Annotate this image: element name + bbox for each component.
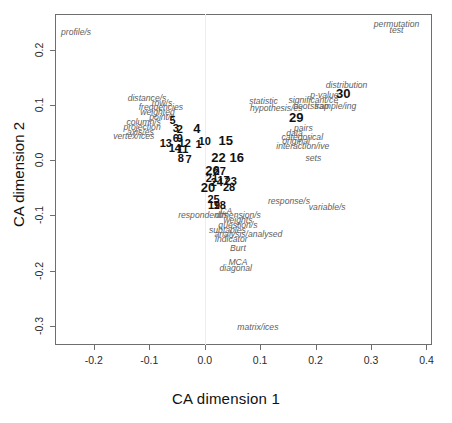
chapter-point-label: 30 (336, 87, 350, 100)
y-tick-label: -0.1 (33, 206, 45, 224)
y-tick-mark (50, 160, 55, 161)
y-tick-mark (50, 105, 55, 106)
y-tick-label: 0.2 (33, 43, 45, 58)
term-point-label: variable/s (309, 202, 346, 211)
term-point-label: response/s (268, 197, 310, 206)
y-tick-label: -0.3 (33, 317, 45, 335)
x-tick-mark (316, 345, 317, 350)
x-tick-label: 0.2 (308, 354, 323, 366)
y-tick-label: 0.0 (33, 153, 45, 168)
term-point-label: p-value (310, 90, 338, 99)
chapter-point-label: 7 (186, 154, 192, 165)
chapter-point-label: 4 (193, 122, 200, 135)
y-tick-mark (50, 326, 55, 327)
chapter-point-label: 18 (214, 200, 226, 211)
chapter-point-label: 15 (219, 134, 233, 147)
x-tick-mark (260, 345, 261, 350)
chapter-point-label: 20 (201, 180, 215, 193)
x-tick-mark (149, 345, 150, 350)
x-tick-label: 0.1 (253, 354, 268, 366)
chapter-point-label: 10 (199, 136, 211, 147)
y-tick-mark (50, 215, 55, 216)
term-point-label: test (390, 26, 404, 35)
ca-biplot-figure: -0.2-0.10.00.10.20.30.4-0.3-0.2-0.10.00.… (0, 0, 452, 423)
chapter-point-label: 28 (223, 182, 235, 193)
term-point-label: matrix/ices (237, 323, 278, 332)
x-tick-mark (371, 345, 372, 350)
chapter-point-label: 16 (230, 150, 244, 163)
x-tick-mark (205, 345, 206, 350)
y-tick-label: 0.1 (33, 98, 45, 113)
term-point-label: indicator (215, 235, 247, 244)
y-tick-mark (50, 50, 55, 51)
x-tick-label: -0.1 (140, 354, 158, 366)
x-tick-label: 0.3 (364, 354, 379, 366)
term-point-label: sets (305, 154, 321, 163)
plot-area (55, 14, 432, 345)
y-tick-label: -0.2 (33, 261, 45, 279)
x-tick-mark (94, 345, 95, 350)
term-point-label: sample/ing (315, 101, 357, 110)
x-tick-label: 0.0 (197, 354, 212, 366)
term-point-label: profile/s (61, 28, 91, 37)
chapter-point-label: 29 (289, 110, 303, 123)
x-tick-label: -0.2 (85, 354, 103, 366)
term-point-label: diagonal (219, 264, 252, 273)
term-point-label: Burt (230, 244, 246, 253)
x-axis-title: CA dimension 1 (0, 390, 452, 407)
y-tick-mark (50, 271, 55, 272)
chapter-point-label: 8 (178, 152, 184, 163)
term-point-label: vertex/ices (113, 132, 154, 141)
x-tick-label: 0.4 (419, 354, 434, 366)
x-tick-mark (426, 345, 427, 350)
term-point-label: interaction/ive (276, 142, 329, 151)
y-axis-title: CA dimension 2 (10, 95, 27, 255)
